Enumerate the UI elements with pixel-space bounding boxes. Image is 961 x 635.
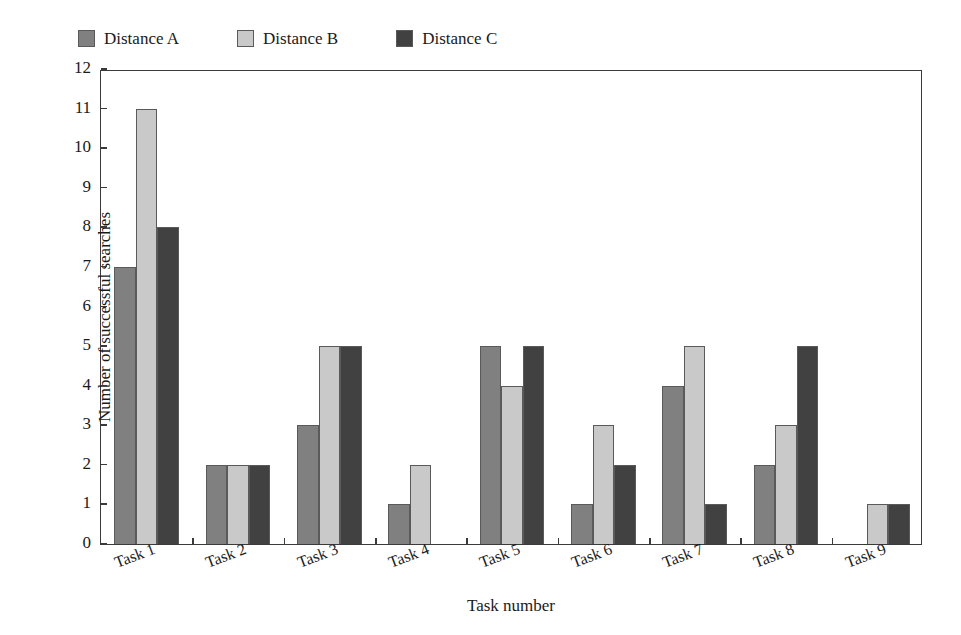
y-tick-label: 5 [51, 335, 91, 355]
bar[interactable] [614, 465, 635, 544]
bar[interactable] [157, 227, 178, 544]
bar[interactable] [775, 425, 796, 544]
y-tick-mark [101, 543, 107, 545]
y-tick-label: 12 [51, 58, 91, 78]
bar[interactable] [136, 109, 157, 544]
y-tick-mark [101, 464, 107, 466]
legend-swatch-icon [396, 30, 413, 47]
legend-entry[interactable]: Distance A [78, 30, 179, 47]
bar[interactable] [593, 425, 614, 544]
bar[interactable] [684, 346, 705, 544]
bar[interactable] [662, 386, 683, 544]
y-tick-mark [101, 68, 107, 70]
y-tick-mark [101, 306, 107, 308]
legend-label: Distance A [104, 30, 179, 47]
bar[interactable] [523, 346, 544, 544]
y-tick-label: 7 [51, 256, 91, 276]
bar[interactable] [867, 504, 888, 544]
bar[interactable] [388, 504, 409, 544]
bar[interactable] [206, 465, 227, 544]
legend-entry[interactable]: Distance B [237, 30, 338, 47]
bar[interactable] [571, 504, 592, 544]
chart-legend: Distance ADistance BDistance C [78, 26, 548, 50]
y-tick-mark [101, 345, 107, 347]
bar[interactable] [297, 425, 318, 544]
y-tick-label: 4 [51, 375, 91, 395]
bar[interactable] [754, 465, 775, 544]
y-tick-mark [101, 226, 107, 228]
y-tick-label: 10 [51, 137, 91, 157]
y-tick-label: 0 [51, 533, 91, 553]
y-tick-label: 9 [51, 177, 91, 197]
x-axis-title: Task number [100, 596, 922, 616]
bar[interactable] [888, 504, 909, 544]
y-tick-mark [101, 108, 107, 110]
bar[interactable] [227, 465, 248, 544]
y-tick-mark [101, 147, 107, 149]
legend-label: Distance C [422, 30, 497, 47]
y-tick-label: 6 [51, 296, 91, 316]
bar[interactable] [480, 346, 501, 544]
y-tick-mark [101, 385, 107, 387]
legend-swatch-icon [78, 30, 95, 47]
bar[interactable] [340, 346, 361, 544]
legend-entry[interactable]: Distance C [396, 30, 497, 47]
y-axis-title: Number of successful searches [95, 57, 115, 577]
y-tick-label: 11 [51, 98, 91, 118]
y-tick-label: 1 [51, 493, 91, 513]
bar[interactable] [410, 465, 431, 544]
bar[interactable] [501, 386, 522, 544]
y-tick-mark [101, 187, 107, 189]
y-tick-mark [101, 266, 107, 268]
bar-chart-figure: Distance ADistance BDistance C Number of… [0, 0, 961, 635]
y-tick-label: 3 [51, 414, 91, 434]
bar[interactable] [797, 346, 818, 544]
y-tick-mark [101, 424, 107, 426]
bar[interactable] [319, 346, 340, 544]
plot-area: Number of successful searches 0123456789… [100, 70, 922, 545]
y-tick-label: 8 [51, 216, 91, 236]
bar[interactable] [705, 504, 726, 544]
legend-swatch-icon [237, 30, 254, 47]
bar[interactable] [114, 267, 135, 544]
legend-label: Distance B [263, 30, 338, 47]
y-tick-label: 2 [51, 454, 91, 474]
y-tick-mark [101, 503, 107, 505]
bar[interactable] [249, 465, 270, 544]
